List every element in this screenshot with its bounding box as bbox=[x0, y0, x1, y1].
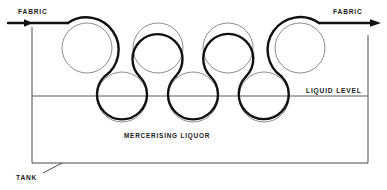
fabric-outlet-label: FABRIC bbox=[333, 8, 363, 15]
mercerising-schematic-svg: FABRIC FABRIC LIQUID LEVEL MERCERISING L… bbox=[0, 0, 387, 190]
mercerising-diagram: FABRIC FABRIC LIQUID LEVEL MERCERISING L… bbox=[0, 0, 387, 190]
tank-outline-group bbox=[32, 27, 368, 163]
tank-label: TANK bbox=[16, 174, 37, 181]
fabric-wrap-bottom-roller-1 bbox=[97, 77, 147, 120]
fabric-wrap-bottom-roller-3 bbox=[239, 77, 289, 120]
fabric-wrap-top-roller-3 bbox=[203, 34, 253, 77]
fabric-path-group bbox=[30, 17, 372, 119]
fabric-inlet-arrow-group bbox=[8, 19, 33, 27]
fabric-outlet-arrow-group bbox=[370, 19, 381, 27]
top-roller-3 bbox=[203, 23, 253, 73]
bottom-roller-2 bbox=[168, 72, 218, 122]
fabric-wrap-bottom-roller-2 bbox=[168, 77, 218, 120]
tank-leader-line bbox=[43, 163, 62, 173]
fabric-inlet-arrowhead bbox=[24, 19, 33, 27]
liquid-level-label: LIQUID LEVEL bbox=[306, 87, 362, 95]
bottom-roller-3 bbox=[239, 72, 289, 122]
bottom-roller-1 bbox=[97, 72, 147, 122]
fabric-inlet-label: FABRIC bbox=[18, 8, 48, 15]
top-roller-1 bbox=[62, 23, 112, 73]
fabric-outlet-arrowhead bbox=[370, 19, 381, 27]
fabric-wrap-top-roller-2 bbox=[133, 34, 183, 76]
top-roller-4 bbox=[275, 23, 325, 73]
top-roller-2 bbox=[133, 23, 183, 73]
mercerising-liquor-label: MERCERISING LIQUOR bbox=[124, 132, 210, 140]
